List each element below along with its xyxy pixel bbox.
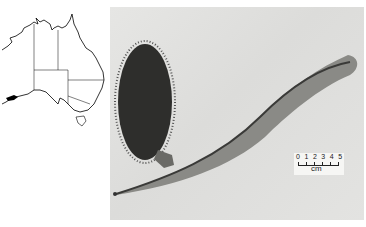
banksia-specimen-icon bbox=[110, 7, 364, 220]
distribution-map bbox=[0, 0, 110, 135]
specimen-photo: 0 1 2 3 4 5 cm bbox=[110, 7, 364, 220]
scale-bar: 0 1 2 3 4 5 cm bbox=[294, 153, 344, 175]
australia-map-icon bbox=[0, 0, 110, 135]
scale-numbers: 0 1 2 3 4 5 bbox=[296, 153, 343, 160]
scale-unit: cm bbox=[311, 164, 322, 173]
